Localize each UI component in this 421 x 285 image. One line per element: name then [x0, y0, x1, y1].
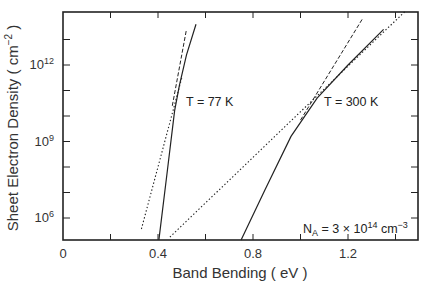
series-line: [141, 78, 181, 229]
chart: 00.40.81.21061091012 Band Bending ( eV )…: [0, 0, 421, 285]
y-tick-label: 109: [35, 133, 54, 149]
y-tick-label: 1012: [30, 56, 54, 72]
y-tick-label: 106: [35, 209, 54, 225]
axis-ticks: [63, 12, 418, 240]
x-axis-title: Band Bending ( eV ): [172, 264, 307, 281]
x-tick-label: 0.8: [244, 246, 262, 261]
x-tick-label: 0: [59, 246, 66, 261]
y-axis-title: Sheet Electron Density ( cm−2 ): [3, 25, 21, 231]
annotation-acceptor-density: NA = 3 × 1014 cm−3: [303, 220, 408, 238]
series-line: [170, 12, 405, 238]
series-line: [241, 29, 384, 240]
annotation-t300: T = 300 K: [324, 95, 379, 109]
series-line: [172, 29, 186, 106]
x-tick-label: 0.4: [149, 246, 167, 261]
plot-frame: [63, 12, 418, 240]
data-series: [141, 12, 405, 240]
annotation-t77: T = 77 K: [186, 95, 234, 109]
plot-border: [63, 12, 418, 240]
series-line: [159, 24, 196, 240]
x-tick-label: 1.2: [339, 246, 357, 261]
